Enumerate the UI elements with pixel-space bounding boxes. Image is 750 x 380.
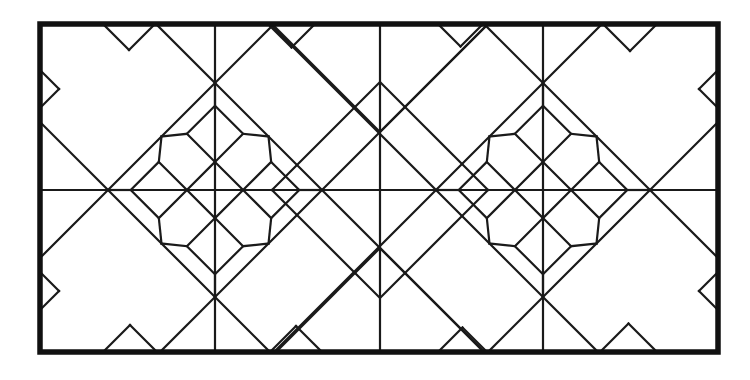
geometric-pattern-figure: [0, 0, 750, 380]
drawing-canvas: [0, 0, 750, 380]
